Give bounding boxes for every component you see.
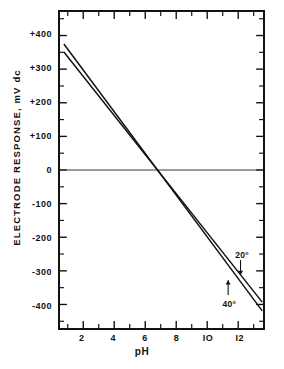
plot-canvas <box>60 12 263 328</box>
data-series-group <box>64 44 262 311</box>
x-axis-title: pH <box>0 346 284 357</box>
x-tick-label: 8 <box>174 333 180 343</box>
figure-root: ELECTRODE RESPONSE, mV dc +400+300+200+1… <box>0 0 284 369</box>
series-label-20: 20° <box>235 250 249 260</box>
x-tick-label: 6 <box>142 333 148 343</box>
series-label-40: 40° <box>223 299 237 309</box>
series-line-40 <box>64 44 262 311</box>
annotation-arrow-head <box>226 280 231 284</box>
x-tick-label: IO <box>203 333 214 343</box>
plot-frame <box>58 10 265 330</box>
x-tick-label: 2 <box>79 333 85 343</box>
x-tick-label: I2 <box>235 333 244 343</box>
x-tick-label: 4 <box>111 333 117 343</box>
